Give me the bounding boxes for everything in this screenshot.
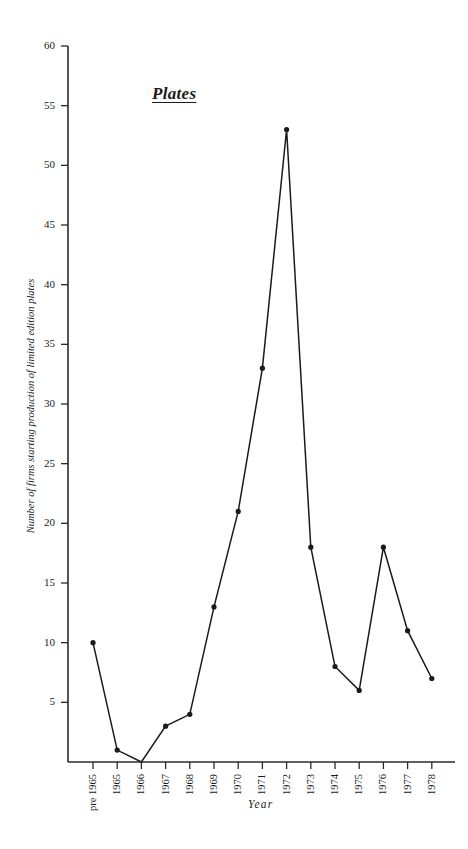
x-axis-tick-label: 1975 [353,774,365,830]
x-axis-title: Year [248,798,273,810]
data-point [357,688,362,693]
x-axis-tick-label: 1977 [402,774,414,830]
x-axis-tick-label: 1968 [184,774,196,830]
x-axis-tick-label: 1967 [160,774,172,830]
data-point [381,545,386,550]
x-axis-tick-label: 1973 [305,774,317,830]
data-point [284,127,289,132]
data-point [115,748,120,753]
x-axis-tick-label: 1970 [232,774,244,830]
x-axis-tick-label: 1974 [329,774,341,830]
x-axis-ticks [93,762,432,769]
x-axis-tick-label: 1966 [135,774,147,830]
data-point [308,545,313,550]
x-axis-tick-label: 1976 [377,774,389,830]
data-point [163,724,168,729]
axes [68,46,455,762]
plot-area [0,0,468,849]
y-axis-title: Number of firms starting production of l… [22,46,40,766]
x-axis-tick-label: 1969 [208,774,220,830]
data-point [332,664,337,669]
x-axis-tick-label: 1978 [426,774,438,830]
x-axis-tick-label: 1965 [111,774,123,830]
x-axis-tick-label: pre 1965 [87,774,99,830]
data-point [405,628,410,633]
data-point-markers [90,127,434,753]
data-point [211,604,216,609]
data-point [187,712,192,717]
data-point [429,676,434,681]
data-point [236,509,241,514]
y-axis-ticks [61,46,68,702]
x-axis-tick-label: 1972 [281,774,293,830]
data-point [260,366,265,371]
data-series-line [93,130,432,763]
data-point [90,640,95,645]
plates-line-chart: Plates 60555045403530252015105 pre 19651… [0,0,468,849]
